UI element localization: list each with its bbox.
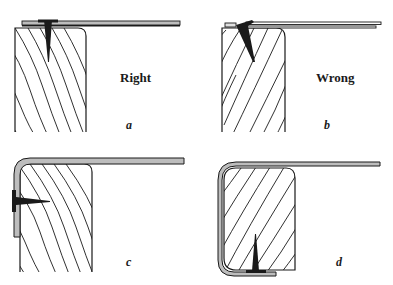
nail-d	[252, 234, 259, 271]
washer-b	[225, 23, 236, 27]
panel-c: c	[0, 142, 196, 285]
diagram-d-drawing	[196, 142, 393, 285]
label-a: a	[126, 118, 132, 133]
label-c: c	[126, 255, 131, 270]
sheet-b-lower	[246, 26, 376, 28]
caption-wrong: Wrong	[316, 70, 355, 86]
wood-board-a	[0, 28, 110, 140]
diagram-b-drawing	[196, 0, 393, 142]
sheet-d	[218, 162, 380, 276]
panel-b: Wrong b	[196, 0, 393, 142]
caption-right: Right	[120, 70, 151, 86]
label-d: d	[336, 255, 342, 270]
nail-a	[44, 20, 52, 62]
nail-c	[16, 197, 50, 205]
panel-d: d	[196, 142, 393, 285]
panel-a: Right a	[0, 0, 196, 142]
diagram-a-drawing	[0, 0, 196, 142]
label-b: b	[324, 118, 330, 133]
diagram-c-drawing	[0, 142, 196, 285]
sheet-b-upper	[246, 22, 381, 25]
